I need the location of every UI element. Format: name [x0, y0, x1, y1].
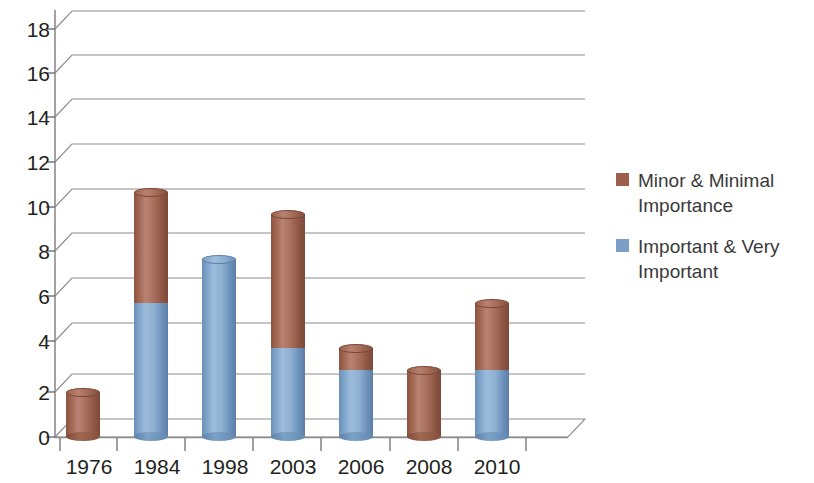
legend-label-minor-minimal: Minor & Minimal Importance [638, 170, 774, 216]
plot-area: 18 16 14 12 10 8 6 4 2 0 1976 1984 1998 … [0, 0, 620, 483]
legend-item-minor-minimal[interactable]: Minor & Minimal Importance [614, 168, 814, 218]
x-axis-labels: 1976 1984 1998 2003 2006 2008 2010 [0, 0, 620, 483]
legend-item-important-very[interactable]: Important & Very Important [614, 234, 814, 284]
chart-legend: Minor & Minimal Importance Important & V… [614, 168, 814, 300]
legend-label-important-very: Important & Very Important [638, 236, 780, 282]
chart-container: 18 16 14 12 10 8 6 4 2 0 1976 1984 1998 … [0, 0, 814, 483]
legend-swatch-minor-minimal-icon [616, 173, 629, 186]
x-tick-label-2010: 2010 [457, 456, 537, 478]
legend-swatch-important-very-icon [616, 239, 629, 252]
